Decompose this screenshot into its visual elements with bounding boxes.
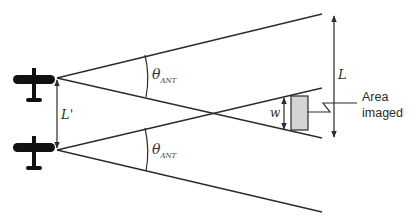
bottom-antenna-beam	[57, 88, 322, 212]
bottom-beam-angle-arc	[145, 128, 148, 171]
airplane-icon	[13, 68, 55, 102]
area-imaged-rect	[291, 96, 308, 130]
airplane-icon	[13, 136, 55, 170]
top-beam-angle-label: θANT	[152, 66, 178, 85]
area-imaged-label-line1: Area	[362, 90, 388, 104]
width-label: w	[270, 106, 281, 120]
swath-label: L	[337, 67, 347, 82]
area-callout-line	[308, 103, 357, 112]
bottom-beam-angle-label: θANT	[152, 141, 178, 160]
baseline-label: L'	[60, 107, 73, 122]
top-beam-angle-arc	[145, 55, 148, 97]
area-imaged-label-line2: imaged	[362, 106, 403, 120]
radar-geometry-diagram: θANT θANT L' L w Area imaged	[0, 0, 413, 220]
